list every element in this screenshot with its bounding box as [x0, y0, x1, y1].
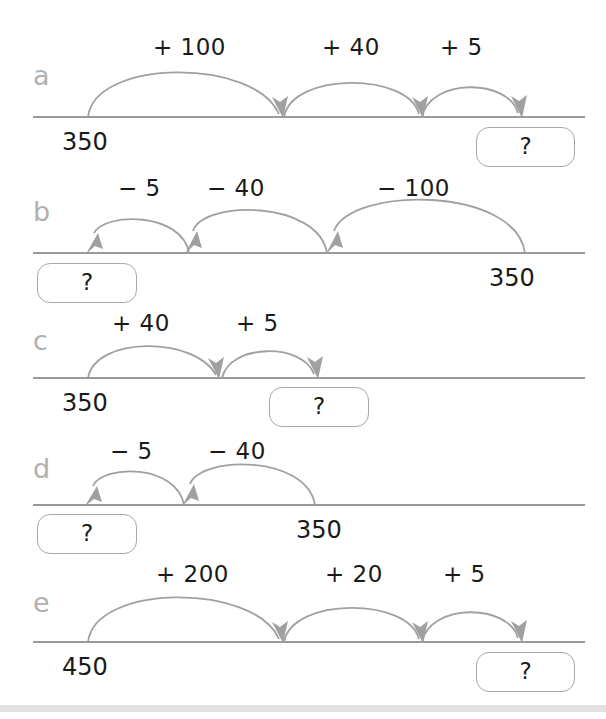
row-a-jump1-label: + 100 — [153, 36, 226, 59]
row-e-jump3-label: + 5 — [443, 563, 486, 586]
row-b-letter: b — [33, 198, 50, 225]
row-b-jump3-label: − 100 — [377, 177, 450, 200]
row-b-answer-box[interactable]: ? — [37, 263, 137, 303]
row-e-answer-box[interactable]: ? — [476, 652, 575, 692]
row-a-number-line — [33, 116, 585, 118]
row-d-answer-text: ? — [81, 522, 93, 545]
row-b-jump2-label: − 40 — [207, 177, 265, 200]
row-c-arcs — [0, 0, 606, 390]
row-d-arcs — [0, 0, 606, 515]
row-c-jump2-label: + 5 — [236, 312, 279, 335]
row-a-arcs — [0, 0, 606, 125]
row-b-jump1-label: − 5 — [118, 177, 161, 200]
row-a-jump2-label: + 40 — [322, 36, 380, 59]
row-a-answer-text: ? — [519, 135, 531, 158]
row-a-letter: a — [33, 62, 50, 89]
row-e-jump2-label: + 20 — [325, 563, 383, 586]
row-d-end-label: 350 — [296, 518, 342, 542]
row-a-start-label: 350 — [62, 130, 108, 154]
row-c-jump1-label: + 40 — [112, 312, 170, 335]
row-d-jump1-label: − 5 — [110, 440, 153, 463]
row-e-answer-text: ? — [519, 660, 531, 683]
row-e-letter: e — [33, 589, 50, 616]
row-d-number-line — [33, 504, 585, 506]
row-a-answer-box[interactable]: ? — [476, 127, 575, 167]
worksheet-canvas: g a + 100 + 40 + 5 350 ? b − 5 − — [0, 0, 606, 719]
row-b-end-label: 350 — [489, 266, 535, 290]
row-c-letter: c — [33, 327, 48, 354]
row-c-answer-box[interactable]: ? — [269, 387, 369, 427]
row-d-letter: d — [33, 455, 50, 482]
row-b-answer-text: ? — [81, 271, 93, 294]
row-d-answer-box[interactable]: ? — [37, 514, 137, 554]
row-c-answer-text: ? — [313, 395, 325, 418]
row-e-jump1-label: + 200 — [156, 563, 229, 586]
page-bottom-rule — [0, 705, 606, 712]
row-a-jump3-label: + 5 — [440, 36, 483, 59]
row-e-number-line — [33, 641, 585, 643]
row-b-number-line — [33, 252, 585, 254]
row-d-jump2-label: − 40 — [208, 440, 266, 463]
row-e-start-label: 450 — [62, 655, 108, 679]
row-c-start-label: 350 — [62, 391, 108, 415]
row-c-number-line — [33, 377, 585, 379]
